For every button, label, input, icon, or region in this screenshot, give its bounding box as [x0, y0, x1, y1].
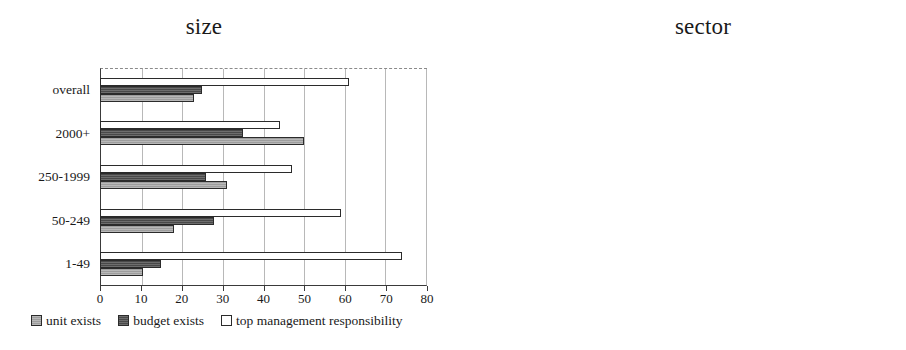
- y-axis-tick-label: 2000+: [0, 127, 96, 141]
- bar: [100, 260, 161, 268]
- bar: [100, 268, 143, 276]
- y-axis-label-column: overall2000+250-199950-2491-49: [0, 68, 96, 286]
- bar-group: [100, 209, 427, 233]
- bar-group: [100, 165, 427, 189]
- y-axis-tick-label: 1-49: [0, 257, 96, 271]
- x-axis-tick-label: 0: [97, 292, 104, 305]
- bar: [100, 165, 292, 173]
- legend-item: top management responsibility: [221, 314, 402, 328]
- bar: [100, 209, 341, 217]
- legend-label: budget exists: [133, 314, 204, 328]
- bar: [100, 252, 402, 260]
- bar: [100, 173, 206, 181]
- x-axis-size: 01020304050607080: [100, 286, 427, 308]
- bar: [100, 137, 304, 145]
- x-axis-tick-label: 20: [175, 292, 188, 305]
- legend-item: unit exists: [31, 314, 101, 328]
- legend-swatch-icon: [221, 315, 232, 326]
- legend-swatch-icon: [31, 315, 42, 326]
- x-axis-tick-label: 30: [216, 292, 229, 305]
- legend-item: budget exists: [118, 314, 204, 328]
- legend-swatch-icon: [118, 315, 129, 326]
- bar-groups-size: [100, 68, 427, 286]
- x-axis-tick-label: 40: [257, 292, 270, 305]
- legend-label: unit exists: [46, 314, 101, 328]
- y-axis-tick-label: overall: [0, 83, 96, 97]
- chart-title-sector: sector: [523, 14, 883, 40]
- bar: [100, 78, 349, 86]
- x-axis-tick-label: 80: [421, 292, 434, 305]
- y-axis-tick-label: 50-249: [0, 214, 96, 228]
- legend-size: unit existsbudget existstop management r…: [31, 314, 403, 328]
- bar-group: [100, 252, 427, 276]
- chart-pair: size overall2000+250-199950-2491-49 0102…: [0, 0, 906, 350]
- bar: [100, 121, 280, 129]
- bar-group: [100, 121, 427, 145]
- x-axis-tick-label: 10: [134, 292, 147, 305]
- x-axis-tick-label: 60: [339, 292, 352, 305]
- chart-panel-sector: sector ServicesBiotechPharmaceuticalVehi…: [453, 0, 906, 350]
- chart-title-size: size: [24, 14, 384, 40]
- bar: [100, 181, 227, 189]
- bar-group: [100, 78, 427, 102]
- bar: [100, 225, 174, 233]
- bar: [100, 86, 202, 94]
- y-axis-labels-size: overall2000+250-199950-2491-49: [0, 68, 96, 286]
- bar: [100, 129, 243, 137]
- bar: [100, 94, 194, 102]
- legend-label: top management responsibility: [236, 314, 402, 328]
- y-axis-tick-label: 250-1999: [0, 170, 96, 184]
- plot-area-size: [100, 68, 427, 286]
- x-axis-tick-label: 70: [380, 292, 393, 305]
- bar: [100, 217, 214, 225]
- x-axis-tick-label: 50: [298, 292, 311, 305]
- chart-panel-size: size overall2000+250-199950-2491-49 0102…: [0, 0, 453, 350]
